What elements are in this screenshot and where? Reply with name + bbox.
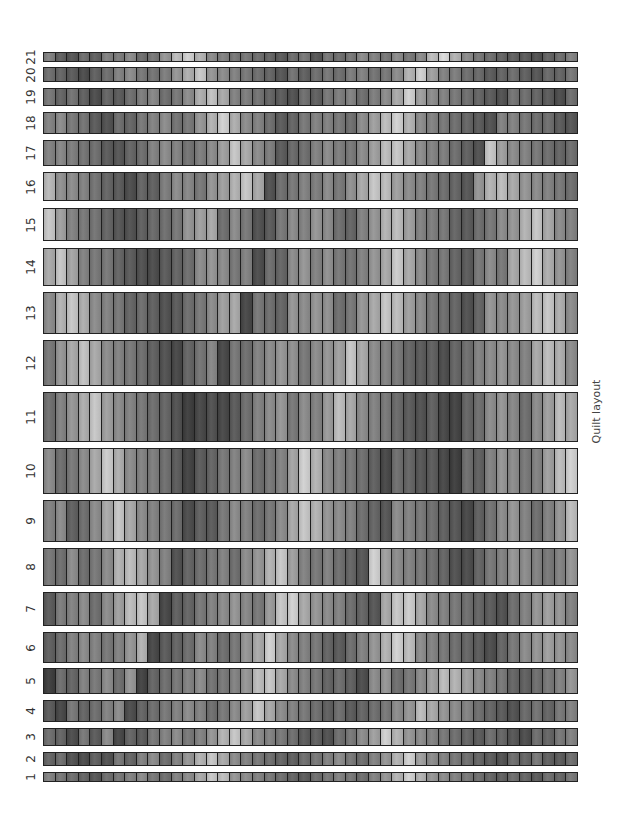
quilt-block [311, 141, 323, 165]
quilt-block [79, 669, 91, 693]
quilt-block [276, 113, 288, 133]
quilt-block [334, 293, 346, 333]
quilt-block [160, 53, 172, 61]
quilt-block [207, 753, 219, 765]
quilt-block [566, 141, 577, 165]
quilt-block [44, 293, 56, 333]
quilt-block [67, 669, 79, 693]
quilt-block [102, 68, 114, 81]
quilt-block [253, 669, 265, 693]
quilt-block [114, 633, 126, 662]
quilt-block [439, 249, 451, 285]
quilt-block [230, 393, 242, 441]
quilt-block [346, 89, 358, 105]
quilt-block [265, 293, 277, 333]
quilt-block [497, 249, 509, 285]
quilt-row [43, 728, 578, 746]
quilt-block [555, 753, 567, 765]
quilt-block [56, 501, 68, 541]
quilt-block [311, 593, 323, 625]
quilt-block [323, 593, 335, 625]
quilt-block [566, 549, 577, 585]
quilt-block [485, 773, 497, 781]
quilt-block [114, 68, 126, 81]
quilt-block [566, 89, 577, 105]
quilt-block [532, 669, 544, 693]
quilt-block [253, 393, 265, 441]
quilt-block [160, 773, 172, 781]
quilt-block [357, 701, 369, 721]
quilt-block [195, 341, 207, 385]
quilt-block [532, 209, 544, 240]
quilt-block [207, 209, 219, 240]
quilt-block [276, 141, 288, 165]
quilt-block [543, 89, 555, 105]
quilt-block [183, 249, 195, 285]
quilt-block [44, 68, 56, 81]
quilt-block [160, 753, 172, 765]
quilt-block [555, 669, 567, 693]
quilt-block [485, 449, 497, 493]
quilt-block [183, 113, 195, 133]
quilt-block [56, 729, 68, 745]
quilt-block [474, 209, 486, 240]
quilt-block [474, 633, 486, 662]
quilt-block [299, 209, 311, 240]
quilt-block [334, 249, 346, 285]
row-label: 5 [22, 672, 40, 690]
quilt-block [44, 141, 56, 165]
quilt-block [79, 209, 91, 240]
quilt-block [44, 393, 56, 441]
quilt-block [44, 753, 56, 765]
quilt-block [230, 113, 242, 133]
quilt-block [404, 89, 416, 105]
quilt-block [114, 113, 126, 133]
quilt-block [195, 773, 207, 781]
quilt-block [392, 293, 404, 333]
quilt-block [276, 729, 288, 745]
quilt-block [369, 89, 381, 105]
quilt-block [311, 113, 323, 133]
quilt-block [253, 249, 265, 285]
quilt-block [125, 341, 137, 385]
quilt-block [195, 173, 207, 200]
quilt-block [508, 501, 520, 541]
quilt-block [148, 633, 160, 662]
quilt-block [207, 173, 219, 200]
quilt-block [474, 341, 486, 385]
quilt-block [79, 68, 91, 81]
quilt-block [102, 773, 114, 781]
quilt-block [404, 701, 416, 721]
quilt-block [172, 141, 184, 165]
quilt-block [67, 173, 79, 200]
quilt-block [555, 549, 567, 585]
quilt-block [323, 249, 335, 285]
quilt-block [172, 633, 184, 662]
quilt-block [520, 549, 532, 585]
quilt-block [439, 68, 451, 81]
quilt-block [497, 729, 509, 745]
quilt-row [43, 752, 578, 766]
quilt-block [369, 773, 381, 781]
quilt-block [276, 633, 288, 662]
quilt-block [79, 249, 91, 285]
quilt-block [172, 341, 184, 385]
quilt-block [566, 341, 577, 385]
quilt-block [462, 669, 474, 693]
quilt-block [125, 249, 137, 285]
quilt-block [230, 89, 242, 105]
quilt-block [288, 141, 300, 165]
quilt-block [416, 449, 428, 493]
quilt-block [485, 249, 497, 285]
quilt-block [439, 141, 451, 165]
quilt-block [56, 669, 68, 693]
quilt-block [323, 141, 335, 165]
quilt-block [357, 393, 369, 441]
quilt-block [427, 68, 439, 81]
quilt-block [450, 249, 462, 285]
quilt-block [90, 593, 102, 625]
quilt-block [439, 209, 451, 240]
quilt-block [299, 173, 311, 200]
quilt-block [416, 89, 428, 105]
quilt-block [276, 68, 288, 81]
